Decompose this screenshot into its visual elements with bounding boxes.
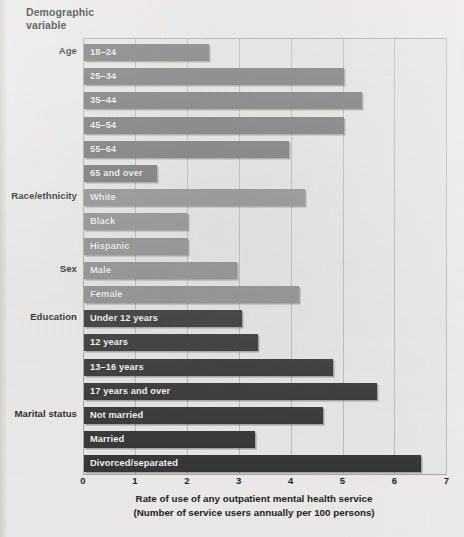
bar-label: Female [90, 286, 123, 303]
x-axis-caption-line2: (Number of service users annually per 10… [44, 506, 464, 520]
bar[interactable]: Black [84, 213, 188, 230]
x-axis: 01234567 [0, 475, 464, 493]
chart-row: EducationUnder 12 years [0, 307, 464, 331]
bar-label: Under 12 years [90, 310, 158, 327]
bar-label: Divorced/separated [90, 455, 178, 472]
bar[interactable]: 45–54 [84, 117, 344, 134]
bar-label: Black [90, 213, 115, 230]
bar-label: Not married [90, 407, 143, 424]
bar[interactable]: 25–34 [84, 68, 344, 85]
x-tick-0: 0 [71, 475, 95, 486]
chart-row: 45–54 [0, 114, 464, 138]
x-axis-caption-line1: Rate of use of any outpatient mental hea… [44, 492, 464, 506]
bar-label: 55–64 [90, 141, 116, 158]
group-label-age: Age [0, 45, 77, 56]
bar[interactable]: 17 years and over [84, 383, 377, 400]
bar[interactable]: Under 12 years [84, 310, 242, 327]
chart-row: 25–34 [0, 65, 464, 89]
chart-row: 35–44 [0, 89, 464, 113]
bar[interactable]: 18–24 [84, 44, 209, 61]
bar[interactable]: 12 years [84, 334, 258, 351]
bar[interactable]: Married [84, 431, 255, 448]
bar-label: 45–54 [90, 117, 116, 134]
chart-row: 13–16 years [0, 356, 464, 380]
chart-row: 65 and over [0, 162, 464, 186]
x-tick-4: 4 [279, 475, 303, 486]
x-tick-2: 2 [175, 475, 199, 486]
bar[interactable]: Hispanic [84, 238, 188, 255]
chart-row: Black [0, 210, 464, 234]
chart-row: 17 years and over [0, 380, 464, 404]
chart-row: SexMale [0, 259, 464, 283]
group-label-race-ethnicity: Race/ethnicity [0, 190, 77, 201]
bar[interactable]: 65 and over [84, 165, 157, 182]
bar-label: 17 years and over [90, 383, 170, 400]
page-title-line1: Demographic [26, 6, 136, 19]
group-label-marital-status: Marital status [0, 408, 77, 419]
bar-label: 35–44 [90, 92, 116, 109]
bar-label: White [90, 189, 116, 206]
chart-row: Female [0, 283, 464, 307]
page-title-line2: variable [26, 19, 136, 32]
bar[interactable]: Female [84, 286, 299, 303]
x-axis-caption: Rate of use of any outpatient mental hea… [0, 492, 464, 520]
chart-row: 55–64 [0, 138, 464, 162]
group-label-sex: Sex [0, 263, 77, 274]
bar-label: 12 years [90, 334, 128, 351]
page-title: Demographic variable [26, 6, 136, 32]
bar[interactable]: 35–44 [84, 92, 362, 109]
chart-row: 12 years [0, 331, 464, 355]
bar-label: Married [90, 431, 124, 448]
bar-label: 13–16 years [90, 359, 144, 376]
bar[interactable]: Not married [84, 407, 323, 424]
bar-label: 65 and over [90, 165, 143, 182]
bar[interactable]: Male [84, 262, 237, 279]
chart-bars: Age18–2425–3435–4445–5455–6465 and overR… [0, 38, 464, 475]
bar-label: Hispanic [90, 238, 130, 255]
chart-row: Age18–24 [0, 41, 464, 65]
bar[interactable]: 55–64 [84, 141, 289, 158]
x-tick-6: 6 [382, 475, 406, 486]
chart-row: Marital statusNot married [0, 404, 464, 428]
bar[interactable]: 13–16 years [84, 359, 333, 376]
bar-label: 25–34 [90, 68, 116, 85]
x-tick-1: 1 [123, 475, 147, 486]
chart-row: Race/ethnicityWhite [0, 186, 464, 210]
chart-row: Divorced/separated [0, 452, 464, 476]
chart-row: Married [0, 428, 464, 452]
bar-label: Male [90, 262, 111, 279]
chart-row: Hispanic [0, 235, 464, 259]
bar[interactable]: White [84, 189, 305, 206]
bar-label: 18–24 [90, 44, 116, 61]
x-tick-5: 5 [331, 475, 355, 486]
bar[interactable]: Divorced/separated [84, 455, 421, 472]
group-label-education: Education [0, 311, 77, 322]
x-tick-3: 3 [227, 475, 251, 486]
x-tick-7: 7 [434, 475, 458, 486]
